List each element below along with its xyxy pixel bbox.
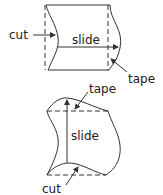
- bottom-slide-label: slide: [71, 129, 99, 143]
- top-figure: cut slide tape: [9, 5, 155, 86]
- top-slide-label: slide: [72, 33, 100, 47]
- bottom-figure: tape slide cut: [42, 82, 120, 195]
- top-tape-leader: [111, 59, 127, 72]
- bottom-cut-leader: [66, 167, 78, 185]
- bottom-tape-label: tape: [89, 82, 116, 96]
- bottom-cut-label: cut: [42, 182, 61, 195]
- top-cut-label: cut: [9, 28, 28, 42]
- top-tape-label: tape: [128, 72, 155, 86]
- diagram-canvas: cut slide tape tape slide cut: [0, 0, 163, 195]
